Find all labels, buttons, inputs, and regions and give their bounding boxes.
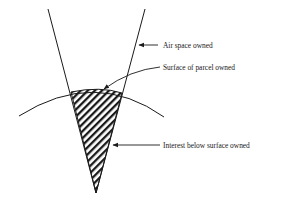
ownership-diagram: Air space owned Surface of parcel owned … (0, 0, 297, 207)
surface-label: Surface of parcel owned (163, 63, 235, 72)
diagram-canvas: Air space owned Surface of parcel owned … (0, 0, 297, 207)
air-space-label: Air space owned (163, 41, 213, 50)
subsurface-wedge (71, 89, 122, 193)
surface-arrow (104, 67, 160, 89)
subsurface-label: Interest below surface owned (163, 141, 250, 150)
